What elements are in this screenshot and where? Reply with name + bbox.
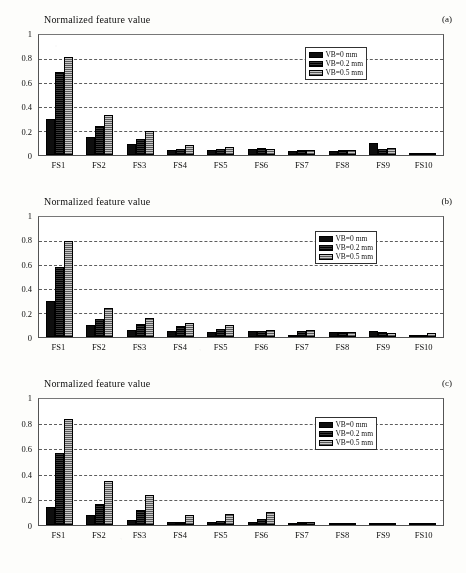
x-tick-label: FS6: [241, 530, 282, 546]
y-tick-label: 0.4: [21, 470, 32, 480]
bar: [347, 150, 356, 155]
x-tick-label: FS3: [119, 530, 160, 546]
bar: [288, 523, 297, 525]
bar: [266, 512, 275, 525]
bar: [216, 329, 225, 337]
legend-label: VB=0.2 mm: [335, 243, 373, 252]
bar: [378, 332, 387, 337]
bar: [418, 153, 427, 155]
bar: [216, 521, 225, 525]
x-tick-label: FS9: [363, 530, 404, 546]
x-tick-label: FS4: [160, 530, 201, 546]
bar: [418, 523, 427, 525]
legend-swatch-icon: [309, 70, 323, 76]
bar: [46, 301, 55, 337]
bar: [306, 330, 315, 337]
legend-swatch-icon: [319, 422, 333, 428]
bar: [136, 324, 145, 337]
x-tick-label: FS10: [403, 530, 444, 546]
panel-a-y-axis: 00.20.40.60.81: [0, 34, 36, 156]
bar: [409, 523, 418, 525]
bar: [185, 515, 194, 525]
panel-c-title: Normalized feature value: [44, 378, 150, 389]
bar: [266, 330, 275, 337]
panel-c-legend: VB=0 mmVB=0.2 mmVB=0.5 mm: [315, 417, 377, 450]
legend-label: VB=0.5 mm: [335, 438, 373, 447]
panel-b-plot-area: VB=0 mmVB=0.2 mmVB=0.5 mm: [38, 216, 444, 338]
legend-label: VB=0.5 mm: [335, 252, 373, 261]
y-tick-label: 0: [28, 151, 32, 161]
bar: [306, 150, 315, 155]
bar: [64, 419, 73, 525]
legend-swatch-icon: [309, 52, 323, 58]
bar: [409, 153, 418, 155]
bar: [378, 523, 387, 525]
panel-b-y-axis: 00.20.40.60.81: [0, 216, 36, 338]
bar: [329, 151, 338, 155]
bar: [338, 332, 347, 337]
panel-a-title: Normalized feature value: [44, 14, 150, 25]
bar: [127, 144, 136, 155]
legend-item: VB=0.2 mm: [309, 59, 363, 68]
panel-a-plot-area: VB=0 mmVB=0.2 mmVB=0.5 mm: [38, 34, 444, 156]
y-tick-label: 0.8: [21, 235, 32, 245]
bar: [167, 150, 176, 155]
panel-c-bars: [39, 399, 443, 525]
bar: [86, 137, 95, 155]
y-tick-label: 0.2: [21, 309, 32, 319]
bar: [288, 335, 297, 337]
x-tick-label: FS2: [79, 160, 120, 176]
bar: [369, 143, 378, 155]
bar: [248, 522, 257, 525]
panel-c-tag: (c): [442, 378, 452, 388]
bar: [55, 72, 64, 155]
legend-label: VB=0.2 mm: [335, 429, 373, 438]
bar-group-fs1: [39, 217, 79, 337]
bar: [347, 332, 356, 337]
bar: [86, 325, 95, 337]
x-tick-label: FS6: [241, 160, 282, 176]
y-tick-label: 0.4: [21, 284, 32, 294]
bar-group-fs3: [120, 35, 160, 155]
bar-group-fs4: [160, 35, 200, 155]
bar: [185, 323, 194, 337]
legend-item: VB=0 mm: [319, 420, 373, 429]
bar: [266, 149, 275, 155]
bar: [145, 495, 154, 525]
bar: [248, 149, 257, 155]
bar-group-fs2: [79, 35, 119, 155]
bar: [427, 153, 436, 155]
bar: [329, 523, 338, 525]
bar-group-fs4: [160, 217, 200, 337]
legend-item: VB=0.2 mm: [319, 243, 373, 252]
bar: [145, 131, 154, 155]
bar-group-fs10: [403, 35, 443, 155]
legend-swatch-icon: [309, 61, 323, 67]
panel-a-bars: [39, 35, 443, 155]
x-tick-label: FS5: [200, 342, 241, 358]
bar: [427, 523, 436, 525]
x-tick-label: FS8: [322, 530, 363, 546]
y-tick-label: 0: [28, 521, 32, 531]
bar-group-fs5: [201, 399, 241, 525]
bar: [46, 507, 55, 525]
x-tick-label: FS10: [403, 342, 444, 358]
bar: [257, 519, 266, 525]
x-tick-label: FS2: [79, 342, 120, 358]
bar: [387, 333, 396, 337]
legend-swatch-icon: [319, 236, 333, 242]
bar: [216, 149, 225, 155]
legend-item: VB=0.5 mm: [319, 438, 373, 447]
bar: [95, 504, 104, 525]
bar: [288, 151, 297, 155]
bar-group-fs1: [39, 399, 79, 525]
panel-a-x-axis: FS1FS2FS3FS4FS5FS6FS7FS8FS9FS10: [38, 160, 444, 176]
y-tick-label: 0.2: [21, 127, 32, 137]
bar: [145, 318, 154, 337]
bar: [248, 331, 257, 337]
y-tick-label: 1: [28, 29, 32, 39]
bar: [225, 325, 234, 337]
bar-group-fs6: [241, 35, 281, 155]
bar: [104, 308, 113, 337]
x-tick-label: FS4: [160, 342, 201, 358]
